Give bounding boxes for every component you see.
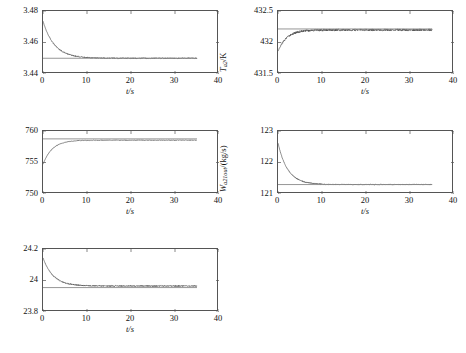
plot-frame	[42, 130, 218, 193]
response-curve	[43, 140, 197, 164]
figure-multiplot: 3.443.463.48010203040t/sPa2/×105 Pa431.5…	[0, 0, 466, 353]
y-tick-label: 3.48	[0, 6, 38, 15]
plot-frame	[42, 248, 218, 311]
y-tick-label: 3.46	[0, 37, 38, 46]
x-tick-label: 0	[30, 76, 54, 85]
x-tick-label: 0	[265, 76, 289, 85]
x-tick-label: 30	[397, 196, 421, 205]
x-tick-label: 10	[74, 76, 98, 85]
y-axis-label: Ta2/K	[219, 52, 229, 71]
x-tick-label: 40	[206, 196, 230, 205]
x-tick-label: 0	[265, 196, 289, 205]
x-tick-label: 30	[162, 314, 186, 323]
tick-marks	[278, 11, 454, 74]
x-tick-label: 10	[309, 196, 333, 205]
x-tick-label: 0	[30, 314, 54, 323]
x-tick-label: 30	[162, 76, 186, 85]
y-tick-label: 755	[0, 157, 38, 166]
plot-canvas	[43, 249, 219, 312]
x-tick-label: 10	[74, 314, 98, 323]
y-tick-label: 122	[235, 157, 273, 166]
response-curve	[278, 143, 432, 185]
plot-canvas	[278, 11, 454, 74]
y-tick-label: 432.5	[235, 6, 273, 15]
plot-frame	[277, 130, 453, 193]
plot-frame	[277, 10, 453, 73]
tick-marks	[43, 11, 219, 74]
x-axis-label: t/s	[335, 87, 395, 96]
x-tick-label: 20	[118, 76, 142, 85]
x-axis-label: t/s	[100, 325, 160, 334]
x-tick-label: 40	[206, 76, 230, 85]
x-tick-label: 10	[309, 76, 333, 85]
response-curve	[43, 21, 197, 59]
y-tick-label: 760	[0, 126, 38, 135]
x-tick-label: 30	[162, 196, 186, 205]
x-tick-label: 10	[74, 196, 98, 205]
x-tick-label: 20	[353, 76, 377, 85]
x-axis-label: t/s	[100, 87, 160, 96]
plot-canvas	[278, 131, 454, 194]
x-tick-label: 30	[397, 76, 421, 85]
y-tick-label: 24	[0, 275, 38, 284]
plot-frame	[42, 10, 218, 73]
plot-canvas	[43, 11, 219, 74]
y-tick-label: 432	[235, 37, 273, 46]
x-tick-label: 40	[206, 314, 230, 323]
x-axis-label: t/s	[100, 207, 160, 216]
y-axis-label: Wa21out/(kg/s)	[219, 145, 229, 192]
tick-marks	[43, 249, 219, 312]
plot-canvas	[43, 131, 219, 194]
response-curve	[43, 258, 197, 287]
x-axis-label: t/s	[335, 207, 395, 216]
x-tick-label: 20	[118, 314, 142, 323]
x-tick-label: 40	[441, 196, 465, 205]
y-tick-label: 24.2	[0, 244, 38, 253]
response-curve	[278, 29, 432, 51]
x-tick-label: 20	[353, 196, 377, 205]
x-tick-label: 20	[118, 196, 142, 205]
x-tick-label: 40	[441, 76, 465, 85]
x-tick-label: 0	[30, 196, 54, 205]
y-tick-label: 123	[235, 126, 273, 135]
